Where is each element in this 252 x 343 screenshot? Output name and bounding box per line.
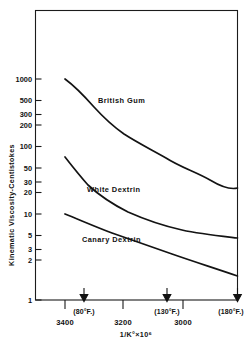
- ytick-label-500: 500: [20, 96, 32, 105]
- xtick-label-3200: 3200: [114, 318, 132, 327]
- ytick-label-100: 100: [20, 142, 32, 151]
- ytick-label-1: 1: [28, 296, 32, 305]
- ytick-label-300: 300: [20, 110, 32, 119]
- xtick-label-3400: 3400: [56, 318, 74, 327]
- figure-background: [0, 0, 252, 343]
- ytick-label-3: 3: [28, 245, 32, 254]
- x-axis-title: 1/K°×10⁶: [120, 330, 152, 339]
- ytick-label-50: 50: [24, 164, 32, 173]
- series-label-british-gum: British Gum: [98, 96, 145, 105]
- viscosity-chart-figure: 1000 500 300 200 100 50 30 20 10 5 3 2 1…: [0, 0, 252, 343]
- series-label-canary-dextrin: Canary Dextrin: [82, 235, 141, 244]
- ytick-label-5: 5: [28, 231, 32, 240]
- series-label-white-dextrin: White Dextrin: [87, 185, 141, 194]
- ytick-label-2: 2: [28, 256, 32, 265]
- temp-label-130f: (130°F.): [154, 308, 179, 316]
- ytick-label-10: 10: [24, 210, 32, 219]
- ytick-label-200: 200: [20, 121, 32, 130]
- ytick-label-1000: 1000: [16, 75, 32, 84]
- xtick-label-3000: 3000: [174, 318, 192, 327]
- ytick-label-30: 30: [24, 178, 32, 187]
- temp-label-180f: (180°F.): [218, 308, 243, 316]
- y-axis-title: Kinematic Viscosity-Centistokes: [7, 144, 16, 266]
- ytick-label-20: 20: [24, 188, 32, 197]
- temp-label-80f: (80°F.): [73, 308, 94, 316]
